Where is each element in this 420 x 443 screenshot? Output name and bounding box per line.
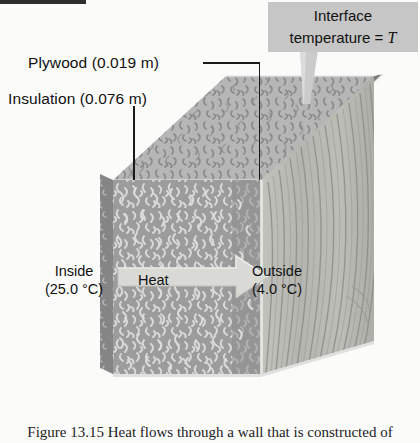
- inside-label: Inside (25.0 °C): [22, 262, 126, 298]
- callout-line-2-text: temperature =: [290, 29, 388, 46]
- outside-title: Outside: [252, 262, 348, 280]
- outside-label: Outside (4.0 °C): [252, 262, 348, 298]
- callout-line-2: temperature = T: [268, 27, 418, 49]
- heat-label: Heat: [138, 272, 169, 288]
- plywood-label: Plywood (0.019 m): [28, 54, 159, 72]
- figure-root: Plywood (0.019 m) Insulation (0.076 m) I…: [0, 0, 420, 443]
- plywood-leader-vertical: [259, 62, 261, 180]
- interface-temperature-callout: Interface temperature = T: [268, 2, 418, 52]
- inside-temperature: (25.0 °C): [22, 280, 126, 298]
- interface-temperature-symbol: T: [388, 29, 397, 46]
- inside-title: Inside: [22, 262, 126, 280]
- plywood-leader-horizontal: [203, 62, 260, 64]
- outside-temperature: (4.0 °C): [252, 280, 348, 298]
- insulation-leader-vertical: [133, 106, 135, 180]
- figure-caption: Figure 13.15 Heat flows through a wall t…: [0, 424, 420, 441]
- callout-line-1: Interface: [268, 5, 418, 27]
- insulation-label: Insulation (0.076 m): [8, 90, 147, 108]
